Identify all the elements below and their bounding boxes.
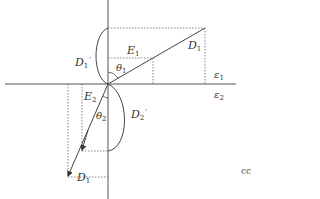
e2-vector-arrow bbox=[82, 130, 88, 150]
d1-prime-arc bbox=[96, 28, 108, 84]
label-theta2: θ2 bbox=[96, 111, 107, 123]
label-d1-lower: D1 bbox=[77, 172, 90, 185]
theta2-arc bbox=[103, 96, 108, 98]
d1-upper-vector bbox=[108, 28, 205, 84]
d2-prime-arc bbox=[108, 84, 125, 151]
label-epsilon1: ε1 bbox=[214, 70, 224, 82]
label-epsilon2: ε2 bbox=[214, 90, 224, 102]
label-e2: E2 bbox=[84, 91, 97, 104]
label-d1-prime: D1′ bbox=[75, 56, 91, 70]
edge-text: cc bbox=[241, 167, 251, 176]
label-theta1: θ1 bbox=[116, 63, 127, 75]
label-d1-upper: D1 bbox=[188, 40, 201, 53]
label-e1: E1 bbox=[127, 45, 140, 58]
label-d2-prime: D2′ bbox=[131, 108, 147, 122]
